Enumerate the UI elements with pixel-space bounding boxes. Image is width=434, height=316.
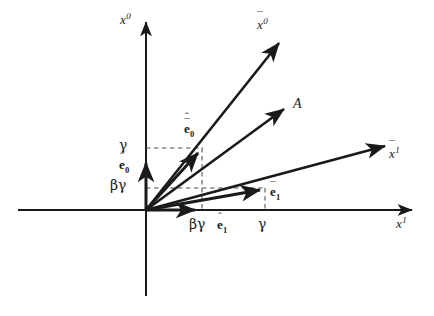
e1-hat-label-base: e [217, 218, 223, 231]
x1-bar-label-base: x [389, 147, 395, 160]
e0-bar-hat-label: ˆ ¯e 0 [184, 122, 194, 135]
x0-bar-axis-label: ¯x 0 [257, 18, 268, 31]
e1-hat-label: ˆe 1 [217, 218, 227, 231]
e0-hat-label-base: e [119, 158, 125, 171]
e0-bar-hat-label-base: e [184, 122, 190, 135]
x0-axis-label-sup: 0 [126, 11, 131, 21]
e0-bar-hat-label-sub: 0 [190, 129, 194, 139]
x1-bar-axis-label: ¯x 1 [389, 147, 400, 160]
e1-hat-label-sub: 1 [223, 225, 227, 235]
diagram-canvas [0, 0, 434, 316]
x1-axis-label-base: x [396, 216, 402, 231]
x0-axis-label-base: x [120, 12, 126, 27]
vector-A-label: A [293, 97, 302, 111]
x1-axis-label: x1 [396, 217, 407, 230]
gamma-y-tick-label: γ [119, 138, 127, 152]
e1-bar-hat-label: ˆ ¯e 1 [270, 185, 280, 198]
x1-bar-label-sup: 1 [395, 145, 400, 155]
e0-hat-label: ˆe 0 [119, 158, 129, 171]
vector-group [146, 43, 385, 210]
beta-gamma-y-tick-label: βγ [110, 178, 126, 192]
x0-axis-label: x0 [120, 13, 131, 26]
e1-bar-hat-label-sub: 1 [276, 192, 280, 202]
gamma-x-tick-label: γ [258, 217, 266, 231]
e0-hat-label-sub: 0 [125, 165, 129, 175]
minkowski-diagram: x0 x1 ¯x 0 ¯x 1 A γ βγ ˆe 0 ˆ ¯e 0 ˆ [0, 0, 434, 316]
x0-bar-label-sup: 0 [263, 16, 268, 26]
e1-bar-hat-label-base: e [270, 185, 276, 198]
x0-bar-label-base: x [257, 18, 263, 31]
beta-gamma-x-tick-label: βγ [189, 217, 205, 231]
x1-axis-label-sup: 1 [402, 215, 407, 225]
